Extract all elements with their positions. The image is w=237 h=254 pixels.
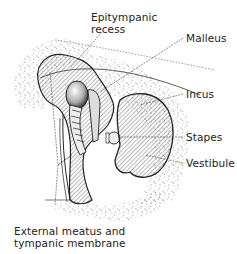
label-meatus-line1: External meatus and: [14, 225, 126, 237]
label-epitympanic-recess: Epitympanic recess: [91, 11, 157, 35]
label-malleus: Malleus: [186, 32, 227, 44]
label-epitympanic-line2: recess: [91, 23, 157, 35]
label-meatus-line2: tympanic membrane: [14, 237, 126, 249]
label-epitympanic-line1: Epitympanic: [91, 11, 157, 23]
vestibule: [115, 94, 173, 178]
label-incus: Incus: [186, 88, 214, 100]
label-external-meatus: External meatus and tympanic membrane: [14, 225, 126, 249]
label-stapes: Stapes: [186, 131, 222, 143]
label-vestibule: Vestibule: [186, 157, 235, 169]
